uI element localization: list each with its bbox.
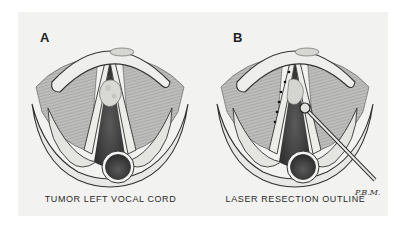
panel-a: A TUMOR LEFT VOCAL CORD (18, 12, 203, 216)
panel-a-caption: TUMOR LEFT VOCAL CORD (18, 194, 203, 204)
larynx-laser-illustration (203, 12, 388, 197)
panel-b: B P.B.M. LASER RESECTION OUTLINE (203, 12, 388, 216)
figure-plate: A TUMOR LEFT VOCAL CORD (18, 12, 388, 216)
panel-b-caption: LASER RESECTION OUTLINE (203, 194, 388, 204)
panel-b-letter: B (233, 30, 242, 45)
panel-a-letter: A (40, 30, 49, 45)
